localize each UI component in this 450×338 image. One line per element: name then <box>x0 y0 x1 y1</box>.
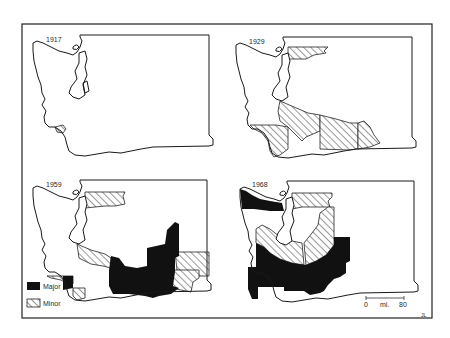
island <box>73 45 79 50</box>
major-region <box>248 267 258 299</box>
major-swatch <box>27 282 40 290</box>
panel-year-1968: 1968 <box>252 181 268 188</box>
figure-frame <box>22 24 432 318</box>
minor-region <box>77 244 111 268</box>
panel-year-1917: 1917 <box>46 36 62 43</box>
island <box>280 191 286 196</box>
puget-sound <box>272 53 290 101</box>
minor-region <box>288 47 328 59</box>
map-panel-1929: 1929 <box>236 37 416 158</box>
legend-item-minor: Minor <box>27 299 61 307</box>
legend-item-major: Major <box>27 282 61 291</box>
major-region <box>109 222 179 298</box>
minor-region <box>55 125 66 133</box>
legend: Major Minor <box>27 282 61 307</box>
scale-start: 0 <box>364 301 368 308</box>
major-region <box>63 276 73 290</box>
panel-year-1959: 1959 <box>46 181 62 188</box>
minor-region <box>73 288 85 300</box>
minor-region <box>320 115 358 150</box>
legend-label-major: Major <box>43 283 61 291</box>
map-panel-1968: 1968 <box>240 181 418 302</box>
island <box>276 47 282 52</box>
scale-unit: mi. <box>380 301 389 308</box>
map-panel-1917: 1917 <box>33 35 213 156</box>
panel-year-1929: 1929 <box>249 38 265 45</box>
figure: 1917 1929 1959 <box>0 0 450 338</box>
puget-sound <box>69 196 87 244</box>
minor-region <box>292 193 332 209</box>
scale-bar: 0 mi. 80 <box>364 296 407 308</box>
corner-mark: JL <box>421 312 427 318</box>
minor-region <box>85 192 125 208</box>
state-outline <box>33 35 213 156</box>
island <box>73 190 79 195</box>
minor-swatch <box>27 299 40 307</box>
scale-end: 80 <box>399 301 407 308</box>
legend-label-minor: Minor <box>43 300 61 307</box>
minor-region <box>358 121 380 149</box>
